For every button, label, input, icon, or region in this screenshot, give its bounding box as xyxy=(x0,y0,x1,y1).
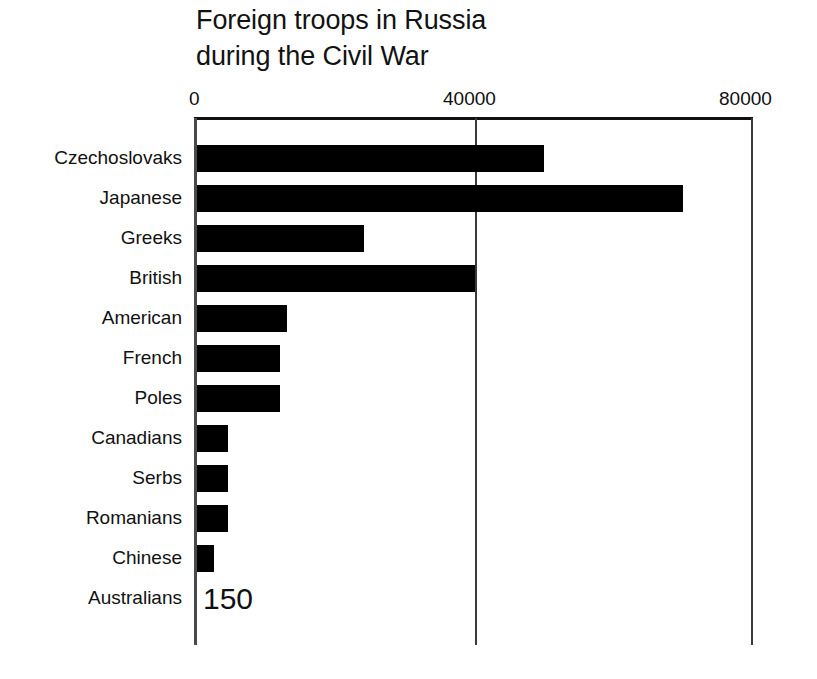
bar-row: Romanians xyxy=(0,498,817,538)
category-label-british: British xyxy=(0,258,182,298)
category-label-poles: Poles xyxy=(0,378,182,418)
bar-row: French xyxy=(0,338,817,378)
category-label-romanians: Romanians xyxy=(0,498,182,538)
category-label-american: American xyxy=(0,298,182,338)
bar-row: Canadians xyxy=(0,418,817,458)
bar-british xyxy=(197,265,475,292)
x-tick-label-40000: 40000 xyxy=(443,88,496,110)
bar-row: Australians150 xyxy=(0,578,817,618)
category-label-french: French xyxy=(0,338,182,378)
category-label-czechoslovaks: Czechoslovaks xyxy=(0,138,182,178)
bar-greeks xyxy=(197,225,364,252)
category-label-canadians: Canadians xyxy=(0,418,182,458)
category-label-japanese: Japanese xyxy=(0,178,182,218)
bar-row: Japanese xyxy=(0,178,817,218)
bar-canadians xyxy=(197,425,228,452)
value-label-australians: 150 xyxy=(203,580,253,618)
bar-serbs xyxy=(197,465,228,492)
category-label-greeks: Greeks xyxy=(0,218,182,258)
bar-row: Serbs xyxy=(0,458,817,498)
bar-row: Czechoslovaks xyxy=(0,138,817,178)
category-label-chinese: Chinese xyxy=(0,538,182,578)
bar-row: Greeks xyxy=(0,218,817,258)
bar-french xyxy=(197,345,280,372)
category-label-australians: Australians xyxy=(0,578,182,618)
bar-chinese xyxy=(197,545,214,572)
bar-chart: Foreign troops in Russia during the Civi… xyxy=(0,0,817,679)
chart-title: Foreign troops in Russia during the Civi… xyxy=(196,2,716,74)
bar-row: Chinese xyxy=(0,538,817,578)
x-tick-label-80000: 80000 xyxy=(719,88,772,110)
bar-row: Poles xyxy=(0,378,817,418)
bar-poles xyxy=(197,385,280,412)
x-tick-label-0: 0 xyxy=(189,88,200,110)
bar-czechoslovaks xyxy=(197,145,544,172)
bar-row: British xyxy=(0,258,817,298)
bar-american xyxy=(197,305,287,332)
category-label-serbs: Serbs xyxy=(0,458,182,498)
top-axis-line xyxy=(194,117,753,120)
bar-japanese xyxy=(197,185,683,212)
bar-romanians xyxy=(197,505,228,532)
bar-row: American xyxy=(0,298,817,338)
